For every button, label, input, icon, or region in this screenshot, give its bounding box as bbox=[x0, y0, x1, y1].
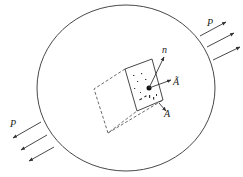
force-arrow bbox=[29, 147, 54, 161]
diagram-canvas: P P bbox=[0, 0, 243, 177]
force-arrow bbox=[21, 135, 47, 150]
force-arrow bbox=[13, 122, 41, 138]
area-vector-label: Ã bbox=[172, 76, 180, 87]
stress-element-diagram: P P bbox=[0, 0, 243, 177]
normal-label: n bbox=[162, 44, 167, 55]
body-outline bbox=[37, 5, 215, 171]
force-label-right: P bbox=[206, 17, 213, 28]
force-arrow bbox=[213, 47, 240, 60]
force-arrow bbox=[207, 33, 234, 47]
right-force-arrows bbox=[200, 22, 240, 60]
area-label: A bbox=[163, 108, 171, 119]
force-label-left: P bbox=[9, 118, 16, 129]
